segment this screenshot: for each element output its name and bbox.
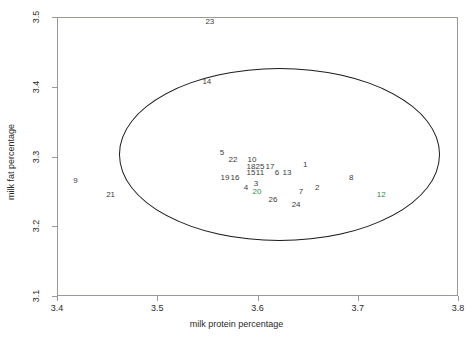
scatter-plot-figure: 3.43.53.63.73.8 3.13.23.33.43.5 23145221… bbox=[0, 0, 473, 339]
y-tick bbox=[52, 296, 57, 297]
data-layer: 2314522101825171151161319168934220721122… bbox=[57, 17, 458, 296]
data-point-label: 12 bbox=[377, 191, 386, 199]
x-tick-label: 3.6 bbox=[251, 303, 264, 313]
x-tick bbox=[57, 296, 58, 301]
data-point-label: 22 bbox=[228, 156, 237, 164]
data-point-label: 1 bbox=[303, 161, 307, 169]
data-point-label: 11 bbox=[256, 169, 264, 177]
data-point-label: 26 bbox=[269, 196, 278, 204]
data-point-label: 4 bbox=[244, 184, 248, 192]
data-point-label: 19 bbox=[220, 174, 229, 182]
data-point-label: 8 bbox=[349, 174, 353, 182]
x-axis-label: milk protein percentage bbox=[0, 319, 473, 329]
confidence-ellipse bbox=[119, 68, 440, 240]
data-point-label: 9 bbox=[73, 177, 77, 185]
y-tick-label: 3.3 bbox=[31, 150, 41, 163]
x-tick-label: 3.8 bbox=[452, 303, 465, 313]
data-point-label: 15 bbox=[247, 169, 256, 177]
y-tick-label: 3.5 bbox=[31, 11, 41, 24]
y-axis-label: milk fat percentage bbox=[6, 102, 16, 222]
x-tick bbox=[157, 296, 158, 301]
data-point-label: 2 bbox=[315, 184, 319, 192]
data-point-label: 17 bbox=[266, 163, 275, 171]
data-point-label: 13 bbox=[283, 169, 292, 177]
y-tick-label: 3.4 bbox=[31, 80, 41, 93]
x-tick bbox=[358, 296, 359, 301]
x-tick-label: 3.4 bbox=[51, 303, 64, 313]
data-point-label: 23 bbox=[205, 18, 214, 26]
x-tick-label: 3.5 bbox=[151, 303, 164, 313]
y-tick-label: 3.1 bbox=[31, 290, 41, 303]
data-point-label: 14 bbox=[202, 78, 211, 86]
data-point-label: 16 bbox=[230, 174, 239, 182]
y-tick-label: 3.2 bbox=[31, 220, 41, 233]
x-tick bbox=[258, 296, 259, 301]
data-point-label: 6 bbox=[275, 169, 279, 177]
x-tick-label: 3.7 bbox=[351, 303, 364, 313]
data-point-label: 7 bbox=[299, 188, 303, 196]
data-point-label: 21 bbox=[106, 191, 115, 199]
data-point-label: 24 bbox=[292, 201, 301, 209]
data-point-label: 20 bbox=[253, 188, 262, 196]
data-point-label: 5 bbox=[220, 149, 224, 157]
x-tick bbox=[458, 296, 459, 301]
